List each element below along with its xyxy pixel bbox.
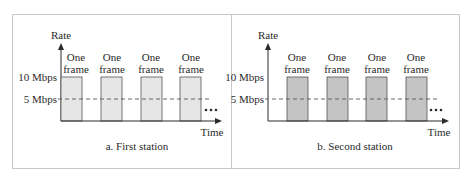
- frame-label: frame: [403, 63, 429, 75]
- frame-label: One: [407, 51, 425, 63]
- frame-bar: [287, 77, 308, 121]
- level-label-10mbps: 10 Mbps: [225, 71, 264, 83]
- level-label-5mbps: 5 Mbps: [24, 93, 57, 105]
- diagram-canvas: Rate 10 Mbps 5 Mbps One frame One frame …: [0, 0, 462, 175]
- chart-first-station: Rate 10 Mbps 5 Mbps One frame One frame …: [18, 29, 223, 152]
- continuation-dots-icon: [430, 109, 443, 112]
- frame-label: One: [103, 51, 121, 63]
- frame-bar: [101, 77, 122, 121]
- y-axis-label: Rate: [258, 29, 278, 41]
- frame-label: One: [368, 51, 386, 63]
- y-axis-arrow-icon: [58, 43, 64, 50]
- frame-label: frame: [99, 63, 125, 75]
- frame-label: frame: [63, 63, 89, 75]
- caption: a. First station: [106, 140, 169, 152]
- x-axis-arrow-icon: [215, 118, 222, 124]
- x-axis-arrow-icon: [442, 118, 449, 124]
- frame-label: One: [328, 51, 346, 63]
- level-label-5mbps: 5 Mbps: [231, 93, 264, 105]
- caption: b. Second station: [317, 140, 393, 152]
- level-label-10mbps: 10 Mbps: [18, 71, 57, 83]
- frame-label: frame: [138, 63, 164, 75]
- y-axis-arrow-icon: [265, 43, 271, 50]
- frame-bar: [366, 77, 387, 121]
- y-axis-label: Rate: [51, 29, 71, 41]
- frame-label: One: [67, 51, 85, 63]
- continuation-dots-icon: [205, 109, 218, 112]
- x-axis-label: Time: [428, 126, 451, 138]
- frame-label: One: [288, 51, 306, 63]
- frame-label: frame: [284, 63, 310, 75]
- frame-labels: One frame One frame One frame One frame: [63, 51, 204, 75]
- frame-bar: [180, 77, 201, 121]
- frame-label: frame: [364, 63, 390, 75]
- frame-bar: [61, 77, 82, 121]
- frame-labels: One frame One frame One frame One frame: [284, 51, 429, 75]
- frame-label: frame: [324, 63, 350, 75]
- x-axis-label: Time: [201, 126, 224, 138]
- chart-second-station: Rate 10 Mbps 5 Mbps One frame One frame …: [225, 29, 450, 152]
- frame-label: One: [182, 51, 200, 63]
- frame-bar: [406, 77, 427, 121]
- frame-label: frame: [178, 63, 204, 75]
- frame-label: One: [142, 51, 160, 63]
